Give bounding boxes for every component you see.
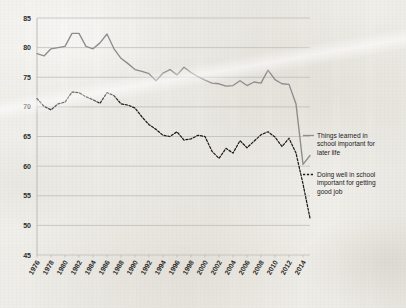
y-tick-label: 85: [23, 15, 31, 22]
x-tick-label: 2008: [251, 259, 265, 276]
x-axis-tick-labels: 1976197819801982198419861988199019921994…: [27, 259, 307, 276]
x-tick-label: 1996: [167, 259, 181, 276]
x-tick-label: 1990: [125, 259, 139, 276]
x-tick-label: 1980: [55, 259, 69, 276]
x-tick-label: 2010: [265, 259, 279, 276]
y-tick-label: 80: [23, 44, 31, 51]
y-tick-label: 70: [23, 103, 31, 110]
chart-svg: 455055606570758085 197619781980198219841…: [0, 0, 406, 308]
legend-label-2-line-2: important for getting: [317, 179, 376, 187]
x-tick-label: 2002: [209, 259, 223, 276]
x-axis-tick-marks: [37, 255, 303, 258]
x-tick-label: 1978: [41, 259, 55, 276]
legend-label-1-line-3: later life: [317, 149, 340, 156]
legend-label-1-line-1: Things learned in: [317, 132, 368, 140]
y-tick-label: 45: [23, 252, 31, 259]
legend-label-1-line-2: school important for: [317, 140, 376, 148]
y-tick-label: 60: [23, 163, 31, 170]
x-tick-label: 2014: [293, 259, 307, 276]
x-tick-label: 2012: [279, 259, 293, 276]
x-tick-label: 1994: [153, 259, 167, 276]
x-tick-label: 1984: [83, 259, 97, 276]
series-line-1: [37, 33, 310, 164]
x-tick-label: 1986: [97, 259, 111, 276]
chart-legend: Things learned inschool important forlat…: [303, 132, 376, 196]
data-series-layer: [37, 33, 310, 218]
line-chart: 455055606570758085 197619781980198219841…: [0, 0, 406, 308]
gridlines: [37, 18, 310, 255]
series-line-2: [37, 92, 310, 218]
x-tick-label: 2004: [223, 259, 237, 276]
y-axis-tick-labels: 455055606570758085: [23, 15, 31, 259]
x-tick-label: 1998: [181, 259, 195, 276]
legend-label-2-line-1: Doing well in school: [317, 171, 376, 179]
x-tick-label: 1988: [111, 259, 125, 276]
x-tick-label: 1976: [27, 259, 41, 276]
y-tick-label: 55: [23, 192, 31, 199]
y-tick-label: 75: [23, 74, 31, 81]
legend-label-2-line-3: good job: [317, 188, 343, 196]
x-tick-label: 1982: [69, 259, 83, 276]
y-tick-label: 65: [23, 133, 31, 140]
x-tick-label: 1992: [139, 259, 153, 276]
x-tick-label: 2000: [195, 259, 209, 276]
y-tick-label: 50: [23, 222, 31, 229]
x-tick-label: 2006: [237, 259, 251, 276]
